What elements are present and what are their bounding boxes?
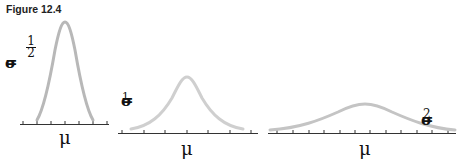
panel-2-mean-label: μ (181, 138, 193, 159)
fraction: 1 2 (26, 36, 36, 59)
panel-1-sigma-label: σ = 1 2 (5, 44, 36, 59)
sigma-value: 2 (423, 107, 431, 122)
panel-1-curve (37, 22, 93, 120)
equals-char: = (5, 55, 18, 70)
panel-2-curve (131, 77, 243, 129)
fraction-denominator: 2 (26, 48, 36, 59)
panel-1-mean-label: μ (59, 127, 71, 148)
sigma-value: 1 (122, 89, 129, 104)
panel-3-axis (268, 130, 456, 134)
panel-3-sigma-label: σ = 2 (421, 101, 433, 116)
panel-2-axis (118, 130, 258, 134)
panel-1-axis (20, 121, 109, 125)
panel-3-mean-label: μ (359, 138, 371, 159)
panel-2-sigma-label: σ = 1 (121, 82, 133, 97)
